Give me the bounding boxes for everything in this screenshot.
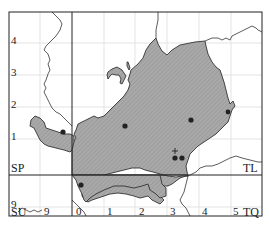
record-dot — [172, 155, 177, 160]
record-dot — [226, 110, 231, 115]
record-dot — [179, 155, 184, 160]
grid-square-su: SU — [11, 206, 26, 218]
x-tick-5: 5 — [233, 206, 239, 217]
y-tick-4: 4 — [11, 35, 17, 46]
x-tick-3: 3 — [170, 206, 176, 217]
y-tick-1: 1 — [11, 131, 17, 142]
distribution-map — [0, 0, 269, 232]
x-tick-4: 4 — [202, 206, 208, 217]
record-dot — [60, 129, 65, 134]
y-tick-2: 2 — [11, 99, 17, 110]
y-tick-3: 3 — [11, 67, 17, 78]
x-tick-2: 2 — [139, 206, 145, 217]
x-tick-9: 9 — [44, 206, 50, 217]
record-dot — [188, 117, 193, 122]
grid-square-tq: TQ — [243, 206, 259, 218]
x-tick-0: 0 — [76, 206, 82, 217]
x-tick-1: 1 — [107, 206, 113, 217]
grid-square-sp: SP — [11, 162, 24, 174]
record-dot — [122, 123, 127, 128]
grid-square-tl: TL — [243, 162, 258, 174]
record-dot — [78, 182, 83, 187]
